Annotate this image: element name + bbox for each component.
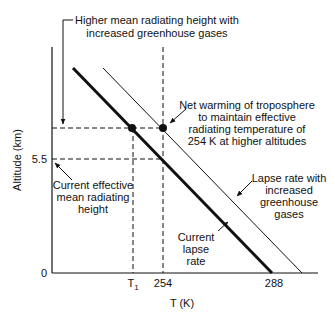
annotation-line: 254 K at higher altitudes (188, 135, 307, 147)
annotation-line: Current (178, 231, 215, 243)
x-tick-t1: T1 (127, 277, 139, 292)
y-tick-0: 0 (41, 267, 47, 279)
annotation-line: Lapse rate with (252, 172, 327, 184)
annotation-line: increased (265, 184, 313, 196)
net-warming-arrow (170, 109, 186, 123)
current-height-arrow (55, 163, 72, 180)
annotation-higher-height: Higher mean radiating height with increa… (75, 14, 239, 39)
annotation-line: gases (274, 208, 304, 220)
y-tick-55: 5.5 (32, 153, 47, 165)
x-tick-254: 254 (154, 277, 172, 289)
marker-t1 (128, 124, 136, 132)
x-tick-288: 288 (265, 277, 283, 289)
annotation-line: radiating temperature of (189, 123, 307, 135)
annotation-line: Higher mean radiating height with (75, 14, 239, 26)
annotation-line: Current effective (53, 179, 134, 191)
x-axis-label: T (K) (170, 297, 194, 309)
marker-254 (159, 124, 167, 132)
y-axis-label: Altitude (km) (11, 129, 23, 191)
annotation-line: to maintain effective (198, 111, 296, 123)
annotation-line: Net warming of troposphere (179, 99, 315, 111)
annotation-line: mean radiating (57, 191, 130, 203)
lapse-rate-diagram: 5.5 0 T1 254 288 T (K) Altitude (km) Hig… (0, 0, 335, 319)
annotation-lapse-ghg: Lapse rate with increased greenhouse gas… (252, 172, 327, 220)
annotation-net-warming: Net warming of troposphere to maintain e… (179, 99, 315, 147)
annotation-line: lapse (183, 243, 209, 255)
annotation-line: increased greenhouse gases (86, 27, 228, 39)
annotation-line: rate (187, 255, 206, 267)
higher-height-arrow (63, 20, 73, 124)
annotation-line: height (78, 203, 108, 215)
lapse-ghg-arrow (237, 181, 252, 196)
annotation-line: greenhouse (260, 196, 318, 208)
annotation-current-height: Current effective mean radiating height (53, 179, 134, 215)
annotation-current-lapse: Current lapse rate (178, 231, 215, 267)
reference-lines (52, 47, 163, 273)
x-tick-t1-sub: 1 (134, 283, 139, 292)
